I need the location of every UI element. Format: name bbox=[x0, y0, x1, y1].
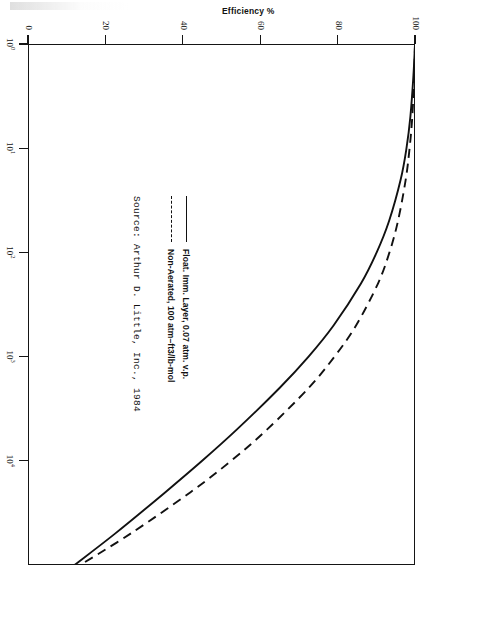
rotated-figure-page: 100101102103104 020406080100 Wind Speed … bbox=[0, 0, 494, 636]
y-axis-tick-label: 80 bbox=[333, 21, 342, 30]
legend-swatch-solid-icon bbox=[186, 196, 187, 242]
x-axis-tick-label: 104 bbox=[5, 455, 16, 467]
source-note: Source: Arthur D. Little, Inc., 1984 bbox=[131, 196, 142, 412]
legend-swatch-dashed-icon bbox=[171, 196, 172, 242]
y-axis-tick-label: 20 bbox=[101, 21, 110, 30]
legend-label: Non-Aerated, 100 atm–ft3/lb-mol bbox=[167, 249, 177, 382]
series-line-solid bbox=[74, 44, 415, 565]
x-axis-tick-label: 101 bbox=[5, 142, 16, 154]
y-axis-tick-label: 100 bbox=[411, 17, 420, 31]
x-axis-tick bbox=[19, 460, 28, 461]
legend-label: Float. Imm. Layer, 0.07 atm. v.p. bbox=[182, 249, 192, 379]
x-axis-tick-label: 102 bbox=[5, 246, 16, 258]
y-axis-tick bbox=[182, 35, 183, 44]
y-axis-tick bbox=[105, 35, 106, 44]
x-axis-tick bbox=[19, 252, 28, 253]
y-axis-tick bbox=[260, 35, 261, 44]
y-axis-tick-label: 0 bbox=[24, 26, 33, 31]
x-axis-tick-label: 103 bbox=[5, 350, 16, 362]
x-axis-tick bbox=[19, 148, 28, 149]
chart-legend: Float. Imm. Layer, 0.07 atm. v.p. Non-Ae… bbox=[164, 196, 194, 382]
x-axis-tick-label: 100 bbox=[5, 38, 16, 50]
y-axis-tick-label: 60 bbox=[256, 21, 265, 30]
y-axis-tick bbox=[337, 35, 338, 44]
y-axis-tick-label: 40 bbox=[178, 21, 187, 30]
y-axis-tick bbox=[414, 35, 415, 44]
x-axis-tick bbox=[19, 356, 28, 357]
y-axis-title: Efficiency % bbox=[222, 6, 274, 16]
legend-item: Non-Aerated, 100 atm–ft3/lb-mol bbox=[164, 196, 179, 382]
y-axis-tick bbox=[27, 35, 28, 44]
legend-item: Float. Imm. Layer, 0.07 atm. v.p. bbox=[179, 196, 194, 382]
chart-curves bbox=[28, 44, 415, 565]
